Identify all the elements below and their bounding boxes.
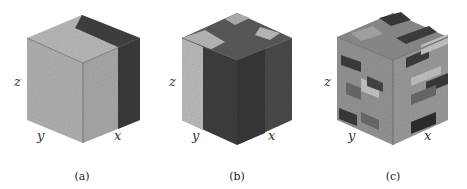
caption-a: (a) bbox=[62, 170, 102, 183]
axis-label-z: z bbox=[169, 75, 176, 88]
cube-b-render bbox=[155, 0, 310, 189]
axis-label-z: z bbox=[14, 75, 21, 88]
axis-label-y: y bbox=[348, 129, 355, 142]
caption-b: (b) bbox=[217, 170, 257, 183]
axis-label-y: y bbox=[192, 129, 199, 142]
cube-a-render bbox=[0, 0, 155, 189]
axis-label-x: x bbox=[424, 129, 431, 142]
axis-label-y: y bbox=[37, 129, 44, 142]
caption-c: (c) bbox=[373, 170, 413, 183]
axis-label-x: x bbox=[268, 129, 275, 142]
panel-b: z y x (b) bbox=[155, 0, 310, 189]
panel-a: z y x (a) bbox=[0, 0, 155, 189]
cube-c-render bbox=[311, 0, 467, 189]
panel-c: z y x (c) bbox=[311, 0, 466, 189]
axis-label-x: x bbox=[114, 129, 121, 142]
axis-label-z: z bbox=[324, 75, 331, 88]
